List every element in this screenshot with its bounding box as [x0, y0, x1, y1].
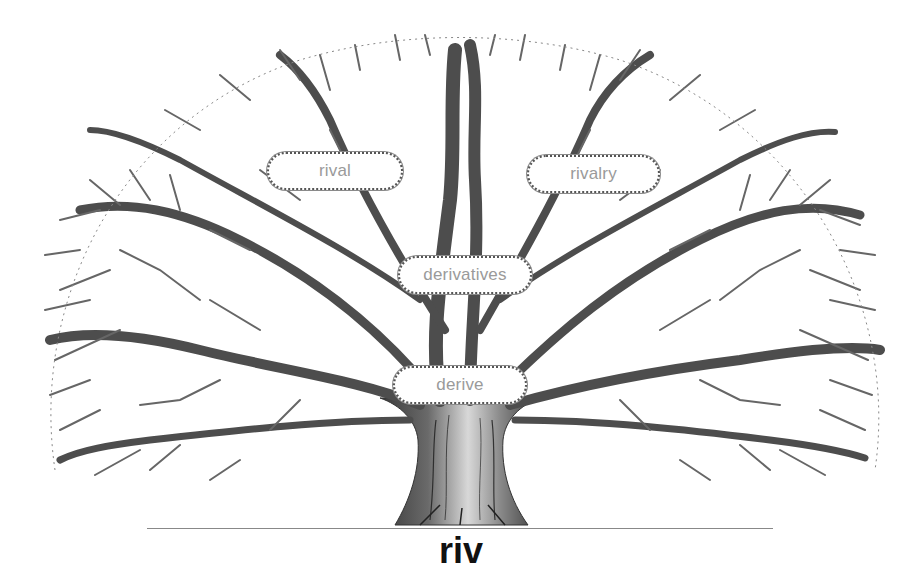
- word-node-label: derive: [436, 375, 484, 395]
- word-node-label: rivalry: [570, 164, 617, 184]
- word-node-derive[interactable]: derive: [393, 366, 527, 404]
- word-node-derivatives[interactable]: derivatives: [398, 256, 532, 294]
- word-node-rivalry[interactable]: rivalry: [527, 155, 660, 193]
- ground-line-divider: [147, 528, 773, 529]
- word-node-rival[interactable]: rival: [267, 152, 403, 190]
- word-node-label: rival: [319, 161, 351, 181]
- root-word-label: riv: [0, 532, 922, 570]
- word-node-label: derivatives: [423, 265, 506, 285]
